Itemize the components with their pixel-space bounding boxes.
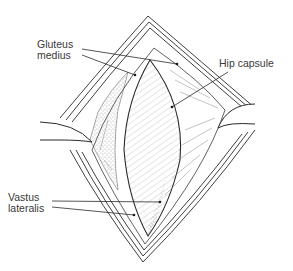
hip-exposure-illustration: Gluteus medius Hip capsule Vastus latera… [0,0,293,271]
right-retractor-icon [218,104,255,128]
gluteus-medius-region [90,72,128,190]
label-vastus-line2: lateralis [8,203,44,214]
label-gluteus-medius: Gluteus medius [37,39,73,61]
left-retractor-icon [40,122,92,142]
label-hip-capsule: Hip capsule [219,58,274,69]
label-hip-capsule-line1: Hip capsule [219,58,274,69]
label-gluteus-line2: medius [37,50,73,61]
hip-capsule-region [124,60,181,236]
label-vastus-lateralis: Vastus lateralis [8,192,44,214]
